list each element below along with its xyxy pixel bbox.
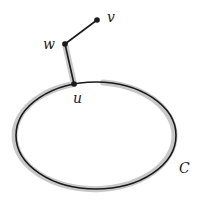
label-w: w [43, 36, 55, 52]
cycle-c [16, 82, 176, 189]
node-w [62, 41, 68, 47]
label-c: C [179, 160, 190, 176]
label-v: v [107, 9, 115, 25]
graph-diagram: v w u C [0, 0, 197, 216]
node-v [94, 17, 100, 23]
node-u [71, 81, 77, 87]
edge-w-v [65, 20, 97, 44]
label-u: u [73, 90, 82, 106]
edge-w-u [65, 44, 74, 84]
